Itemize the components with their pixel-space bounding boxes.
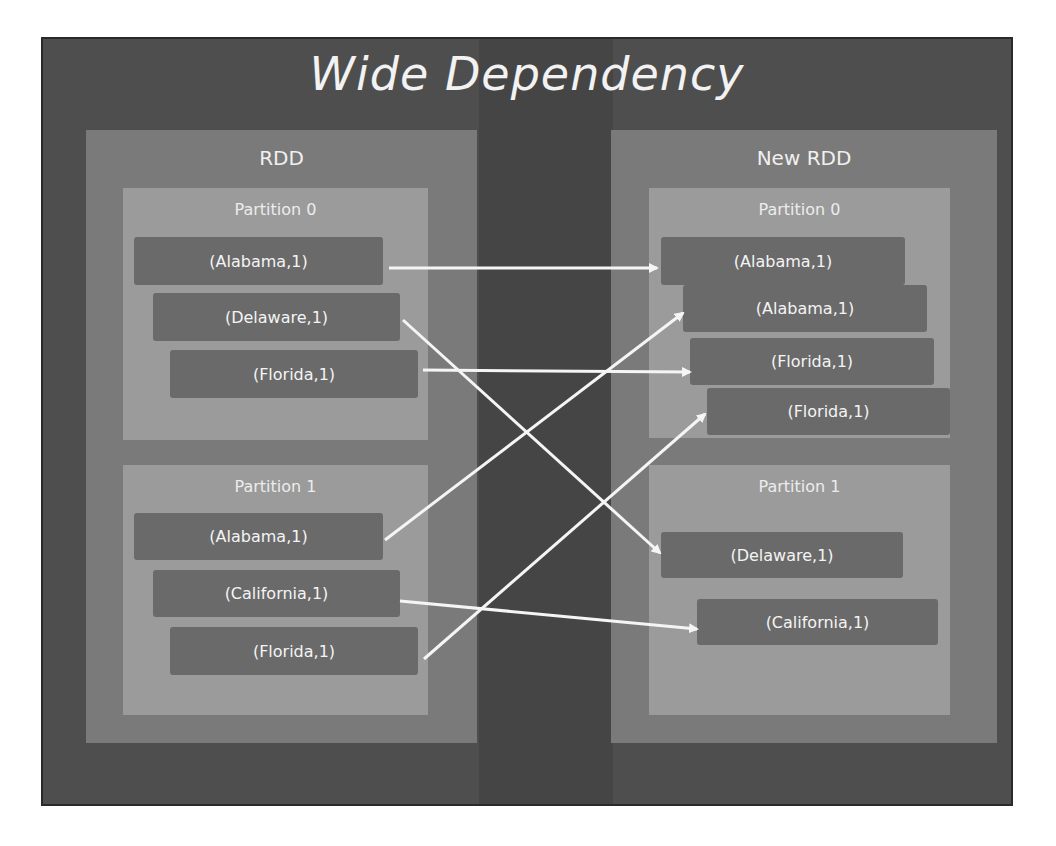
source-rdd-label: RDD [86,146,477,170]
target-p1-record-california: (California,1) [697,599,938,645]
source-partition-0-label: Partition 0 [123,200,428,219]
source-p0-record-alabama: (Alabama,1) [134,237,383,285]
center-divider [479,39,613,804]
source-partition-1-label: Partition 1 [123,477,428,496]
target-partition-1-label: Partition 1 [649,477,950,496]
source-p0-record-delaware: (Delaware,1) [153,293,400,341]
target-p0-record-alabama-1: (Alabama,1) [661,237,905,285]
source-p0-record-florida: (Florida,1) [170,350,418,398]
target-p0-record-alabama-2: (Alabama,1) [683,285,927,332]
target-p0-record-florida-2: (Florida,1) [707,388,950,435]
target-partition-0-label: Partition 0 [649,200,950,219]
source-p1-record-california: (California,1) [153,570,400,617]
target-partition-1: Partition 1 [649,465,950,715]
target-rdd-label: New RDD [611,146,997,170]
slide-title: Wide Dependency [43,47,1011,101]
source-p1-record-alabama: (Alabama,1) [134,513,383,560]
target-p0-record-florida-1: (Florida,1) [690,338,934,385]
target-p1-record-delaware: (Delaware,1) [661,532,903,578]
source-p1-record-florida: (Florida,1) [170,627,418,675]
